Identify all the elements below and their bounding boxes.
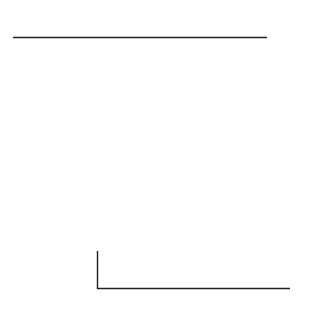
timing-diagram bbox=[0, 0, 328, 331]
axis-polyline bbox=[98, 251, 291, 289]
timing-diagram-page bbox=[0, 0, 328, 331]
time-axis bbox=[98, 251, 291, 289]
